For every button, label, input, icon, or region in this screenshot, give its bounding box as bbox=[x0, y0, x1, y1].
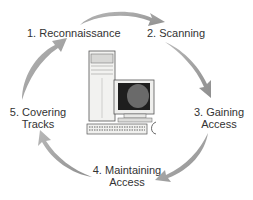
step-2-text: 2. Scanning bbox=[147, 27, 205, 39]
step-4-line-2: Access bbox=[92, 176, 162, 188]
step-3-label: 3. Gaining Access bbox=[192, 106, 246, 130]
step-1-text: 1. Reconnaissance bbox=[27, 27, 121, 39]
hacking-cycle-diagram: 1. Reconnaissance 2. Scanning 3. Gaining… bbox=[0, 0, 253, 200]
arrow-4-to-5-icon bbox=[38, 130, 92, 177]
step-1-label: 1. Reconnaissance bbox=[27, 27, 121, 39]
computer-icon bbox=[87, 51, 156, 134]
step-4-line-1: 4. Maintaining bbox=[92, 164, 162, 176]
arrow-3-to-4-icon bbox=[155, 133, 208, 182]
arrow-1-to-2-icon bbox=[80, 12, 165, 26]
step-4-label: 4. Maintaining Access bbox=[92, 164, 162, 188]
step-3-line-1: 3. Gaining bbox=[192, 106, 246, 118]
step-3-line-2: Access bbox=[192, 118, 246, 130]
step-2-label: 2. Scanning bbox=[147, 27, 205, 39]
arrow-2-to-3-icon bbox=[165, 42, 211, 98]
step-5-line-1: 5. Covering bbox=[9, 106, 67, 118]
step-5-label: 5. Covering Tracks bbox=[9, 106, 67, 130]
arrow-5-to-1-icon bbox=[22, 38, 67, 100]
step-5-line-2: Tracks bbox=[9, 118, 67, 130]
